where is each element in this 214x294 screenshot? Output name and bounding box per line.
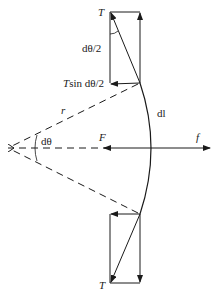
half-angle-arc-top [110,31,118,34]
tension-arrow-bottom [111,214,140,282]
force-F-label: F [98,131,106,143]
half-angle-label: dθ/2 [82,42,101,54]
radius-line-top [10,84,138,147]
tsin-component-arrow [111,83,140,84]
tsin-label: Tsin dθ/2 [63,77,104,89]
radius-line-bottom [10,149,138,213]
force-diagram: T dθ/2 Tsin dθ/2 r dl dθ F f T [0,0,214,294]
top-force-rectangle [110,12,140,84]
tsin-rest: sin dθ/2 [69,77,104,89]
arc-length-label: dl [157,107,166,119]
tension-label-bottom: T [99,279,106,291]
radius-label: r [61,104,66,116]
force-f-label: f [196,131,201,143]
bottom-force-rectangle [110,214,140,283]
angle-label: dθ [41,135,52,147]
tension-label-top: T [98,6,105,18]
tension-arrow-top [111,13,140,83]
